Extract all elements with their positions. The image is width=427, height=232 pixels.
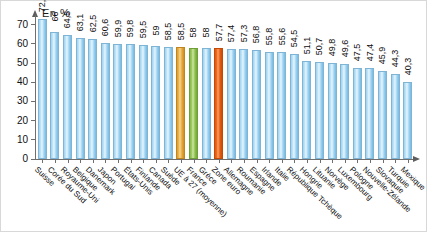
bar[interactable] [63, 35, 72, 159]
bar[interactable] [151, 46, 160, 159]
bar[interactable] [378, 71, 387, 159]
bar-group[interactable]: 58,5 [164, 15, 173, 159]
bar[interactable] [176, 47, 185, 159]
y-axis-tick-label: 20 [17, 116, 28, 126]
bar[interactable] [365, 68, 374, 159]
bar[interactable] [38, 19, 47, 159]
x-axis-tick-mark [282, 159, 283, 163]
bar-group[interactable]: 47,4 [365, 15, 374, 159]
bar-value-label: 40,3 [403, 57, 412, 75]
bar[interactable] [76, 38, 85, 159]
x-axis-tick-mark [143, 159, 144, 163]
x-axis-tick-mark [345, 159, 346, 163]
y-axis-tick: 20 [1, 116, 35, 126]
bar[interactable] [277, 52, 286, 159]
y-axis-tick-label: 10 [17, 135, 28, 145]
bar[interactable] [101, 43, 110, 159]
y-axis-tick-mark [31, 139, 35, 140]
bar[interactable] [164, 47, 173, 159]
bar[interactable] [202, 48, 211, 159]
bar-group[interactable]: 49,6 [340, 15, 349, 159]
bar[interactable] [328, 63, 337, 159]
bar-value-label: 51,1 [302, 37, 311, 55]
bar[interactable] [189, 48, 198, 159]
bar-value-label: 60,6 [101, 18, 110, 36]
bar-group[interactable]: 55,8 [265, 15, 274, 159]
bar-value-label: 45,9 [378, 47, 387, 65]
x-axis-tick-mark [294, 159, 295, 163]
y-axis-tick-label: 40 [17, 77, 28, 87]
y-axis-tick: 0 [1, 154, 35, 164]
bar-group[interactable]: 59,5 [139, 15, 148, 159]
x-axis-tick-mark [320, 159, 321, 163]
bar[interactable] [88, 39, 97, 159]
bar-group[interactable]: 62,5 [88, 15, 97, 159]
x-axis-tick-mark [370, 159, 371, 163]
bar-value-label: 58,5 [176, 22, 185, 40]
bar[interactable] [302, 61, 311, 159]
x-axis-tick-mark [357, 159, 358, 163]
y-axis-tick: 30 [1, 96, 35, 106]
x-axis-tick-mark [55, 159, 56, 163]
bar-group[interactable]: 59,9 [113, 15, 122, 159]
bar-group[interactable]: 66 [50, 15, 59, 159]
bar[interactable] [239, 49, 248, 159]
bar[interactable] [403, 82, 412, 159]
bar-group[interactable]: 40,3 [403, 15, 412, 159]
bar[interactable] [252, 50, 261, 159]
bar-group[interactable]: 63,1 [76, 15, 85, 159]
bar[interactable] [227, 49, 236, 159]
y-axis-tick-label: 30 [17, 96, 28, 106]
bar-group[interactable]: 56,8 [252, 15, 261, 159]
bar-group[interactable]: 64,5 [63, 15, 72, 159]
bar-group[interactable]: 59,8 [126, 15, 135, 159]
bar-group[interactable]: 59 [151, 15, 160, 159]
x-axis-tick-mark [168, 159, 169, 163]
x-axis-tick-mark [257, 159, 258, 163]
bar-group[interactable]: 47,5 [353, 15, 362, 159]
y-axis-tick-label: 0 [22, 154, 28, 164]
x-axis-tick-mark [131, 159, 132, 163]
employment-rate-bar-chart: En % 010203040506070 72,76664,563,162,56… [0, 0, 427, 232]
bar[interactable] [126, 44, 135, 159]
bar[interactable] [391, 74, 400, 159]
y-axis-tick-mark [31, 120, 35, 121]
bar-group[interactable]: 60,6 [101, 15, 110, 159]
bar-group[interactable]: 57,7 [214, 15, 223, 159]
bar-group[interactable]: 58,5 [176, 15, 185, 159]
y-axis-tick-mark [31, 43, 35, 44]
bar-value-label: 59 [151, 25, 160, 35]
bar-group[interactable]: 51,1 [302, 15, 311, 159]
bar-group[interactable]: 45,9 [378, 15, 387, 159]
bar-group[interactable]: 50,7 [315, 15, 324, 159]
bar[interactable] [315, 62, 324, 159]
y-axis-tick-mark [31, 63, 35, 64]
bar-value-label: 58,5 [164, 22, 173, 40]
bar[interactable] [290, 54, 299, 159]
y-axis-tick-mark [31, 82, 35, 83]
y-axis-tick: 50 [1, 58, 35, 68]
bar-value-label: 55,6 [277, 28, 286, 46]
bar[interactable] [50, 32, 59, 159]
bar[interactable] [214, 48, 223, 159]
bar[interactable] [113, 44, 122, 159]
bar-group[interactable]: 57,3 [239, 15, 248, 159]
bar-group[interactable]: 58 [189, 15, 198, 159]
bar[interactable] [139, 45, 148, 159]
bar-group[interactable]: 57,4 [227, 15, 236, 159]
x-axis-tick-mark [42, 159, 43, 163]
bar-group[interactable]: 58 [202, 15, 211, 159]
bar-value-label: 47,4 [365, 44, 374, 62]
bar-group[interactable]: 54,5 [290, 15, 299, 159]
x-axis-tick-mark [105, 159, 106, 163]
x-axis-tick-mark [332, 159, 333, 163]
bar-group[interactable]: 72,7 [38, 15, 47, 159]
bar-group[interactable]: 44,3 [391, 15, 400, 159]
bar[interactable] [353, 68, 362, 159]
bar[interactable] [265, 52, 274, 159]
bar-group[interactable]: 49,8 [328, 15, 337, 159]
y-axis-tick-label: 60 [17, 39, 28, 49]
bar-group[interactable]: 55,6 [277, 15, 286, 159]
bar[interactable] [340, 64, 349, 159]
x-axis-tick-mark [93, 159, 94, 163]
